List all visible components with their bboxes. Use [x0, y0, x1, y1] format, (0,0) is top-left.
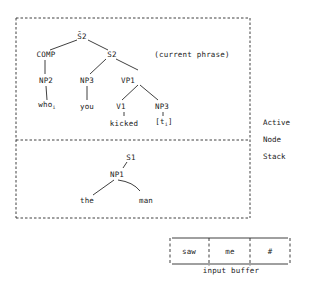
- buffer-cell-3: #: [268, 247, 273, 256]
- node-v1: V1: [116, 102, 125, 111]
- word-you: you: [80, 102, 94, 111]
- side-label-active: Active: [263, 118, 290, 127]
- word-the: the: [80, 196, 94, 205]
- edge-s1-np1: [123, 162, 127, 168]
- trace: [ti]: [155, 117, 172, 129]
- edge-vp1-np3: [140, 85, 158, 100]
- word-man: man: [139, 196, 153, 205]
- word-who-text: who: [38, 100, 52, 109]
- buffer-cell-1: saw: [182, 247, 196, 256]
- edge-s2-vp1: [116, 59, 138, 70]
- side-label-stack: Stack: [263, 152, 286, 161]
- node-vp1: VP1: [121, 76, 135, 85]
- node-np2: NP2: [39, 76, 53, 85]
- edge-sbar2-s2: [88, 40, 108, 50]
- edge-sbar2-comp: [50, 40, 77, 50]
- word-kicked: kicked: [110, 119, 138, 128]
- node-s2: S2: [107, 50, 116, 59]
- node-comp: COMP: [37, 50, 56, 59]
- side-label-node: Node: [263, 135, 281, 144]
- edge-np2-who: [46, 86, 47, 100]
- index-subscript: i: [52, 104, 55, 110]
- edge-vp1-v1: [122, 85, 138, 100]
- word-who: whoi: [38, 100, 55, 112]
- edge-s2-np3: [90, 59, 106, 74]
- node-s1: S1: [126, 153, 135, 162]
- input-buffer-label: input buffer: [203, 266, 260, 275]
- node-sbar2: S̄2: [77, 32, 86, 41]
- edge-np1-the: [93, 180, 114, 195]
- current-phrase-annotation: (current phrase): [154, 50, 229, 59]
- diagram-lines: [0, 0, 309, 290]
- trace-close: ]: [168, 117, 173, 126]
- node-np1: NP1: [110, 170, 124, 179]
- edge-np1-man: [118, 180, 140, 191]
- buffer-cell-2: me: [225, 247, 234, 256]
- node-np3-subject: NP3: [80, 76, 94, 85]
- node-np3-object: NP3: [155, 102, 169, 111]
